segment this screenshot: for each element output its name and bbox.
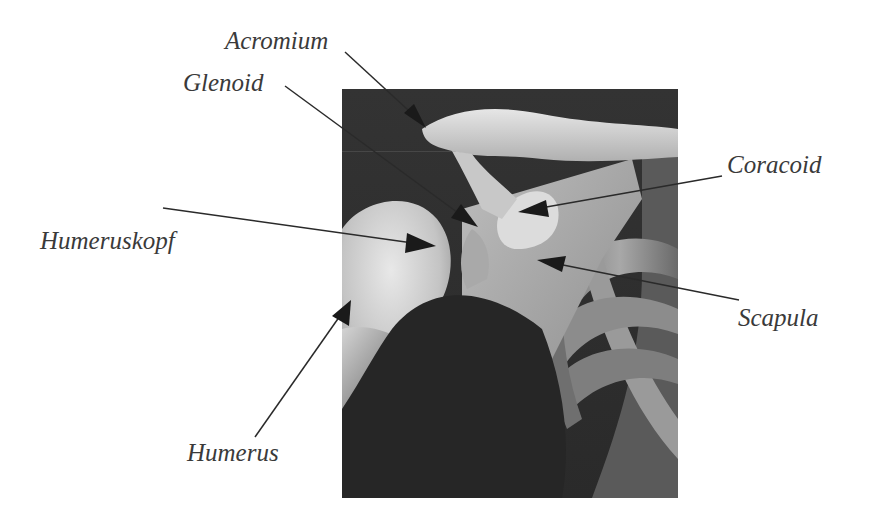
leader-line-humerus (255, 300, 351, 437)
label-humerus: Humerus (187, 440, 279, 465)
label-coracoid: Coracoid (727, 152, 821, 177)
label-acromium: Acromium (225, 28, 328, 53)
label-humeruskopf: Humeruskopf (40, 228, 175, 253)
label-scapula: Scapula (738, 305, 819, 330)
label-glenoid: Glenoid (183, 70, 264, 95)
shoulder-anatomy-image (342, 89, 678, 498)
